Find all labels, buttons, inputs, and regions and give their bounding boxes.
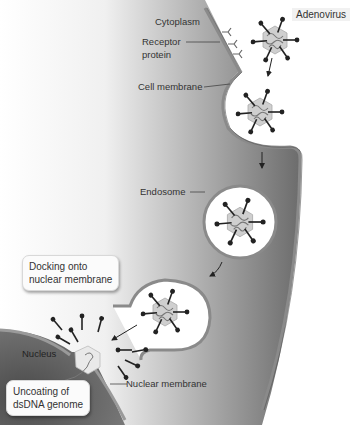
step-docking-line2: nuclear membrane <box>29 273 112 286</box>
label-endosome: Endosome <box>140 186 185 198</box>
step-docking-box: Docking onto nuclear membrane <box>22 255 119 291</box>
label-cell-membrane: Cell membrane <box>138 81 202 93</box>
label-receptor-line2: protein <box>142 49 171 61</box>
step-uncoating-line1: Uncoating of <box>13 385 83 398</box>
step-uncoating-box: Uncoating of dsDNA genome <box>6 380 90 416</box>
label-nucleus: Nucleus <box>22 348 56 360</box>
step-uncoating-line2: dsDNA genome <box>13 398 83 411</box>
label-cytoplasm: Cytoplasm <box>155 16 200 28</box>
adenovirus-entry-diagram <box>0 0 356 425</box>
label-nuclear-membrane: Nuclear membrane <box>126 378 207 390</box>
label-adenovirus: Adenovirus <box>292 8 350 21</box>
label-receptor-line1: Receptor <box>142 36 181 48</box>
step-docking-line1: Docking onto <box>29 260 112 273</box>
